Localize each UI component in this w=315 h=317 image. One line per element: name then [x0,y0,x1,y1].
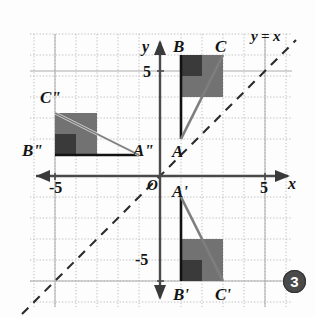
figure-canvas: y x O 5 -5 5 -5 y = x A B C A' B' C' A" … [0,0,315,317]
tick-label-y-negative: -5 [135,252,148,268]
coordinate-plane-graphic [0,0,315,317]
vertex-label-c-double-prime: C" [40,89,60,106]
y-axis [154,40,166,300]
vertex-label-b-double-prime: B" [22,142,42,159]
triangle-a-prime-b-prime-c-prime [181,197,223,281]
axis-label-x: x [288,176,296,192]
origin-label: O [147,178,158,193]
vertex-label-c-prime: C' [215,286,231,303]
vertex-label-a-double-prime: A" [133,142,153,159]
problem-number-badge: 3 [283,270,306,293]
line-equation-label: y = x [251,29,280,44]
vertex-label-a-prime: A' [172,183,188,200]
vertex-label-a: A [172,143,183,160]
vertex-label-c: C [215,38,226,55]
axis-label-y: y [142,39,149,55]
vertex-label-b-prime: B' [173,286,189,303]
triangle-a-double-prime-b-double-prime-c-double-prime [55,113,139,155]
triangle-abc [181,55,223,139]
tick-label-x-negative: -5 [49,180,62,196]
tick-label-y-positive: 5 [143,64,151,80]
tick-label-x-positive: 5 [260,180,268,196]
vertex-label-b: B [173,38,184,55]
